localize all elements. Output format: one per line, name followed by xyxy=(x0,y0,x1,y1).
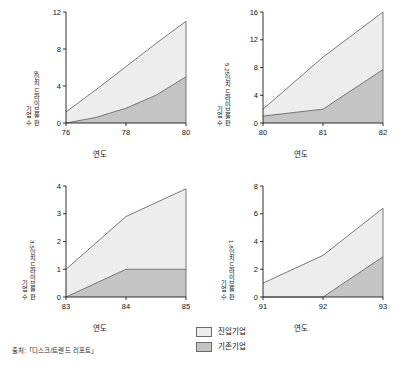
svg-text:83: 83 xyxy=(62,302,70,311)
plot-area-8inch: 04812767880 xyxy=(44,4,194,149)
legend-item-incumbent: 기존기업 xyxy=(196,340,326,353)
svg-text:1: 1 xyxy=(57,265,61,274)
svg-text:0: 0 xyxy=(57,293,61,302)
chart-panel-5-25inch: 기업 수 5.25인치 드라이브를 판 0481216808182 연도 xyxy=(201,0,401,168)
svg-text:78: 78 xyxy=(122,128,130,137)
x-axis-label-3-5inch: 연도 xyxy=(0,322,200,333)
y-axis-label-1-8inch: 기업 수 1.8인치 드라이브를 판 xyxy=(219,180,235,300)
svg-text:4: 4 xyxy=(254,91,258,100)
svg-text:6: 6 xyxy=(254,209,258,218)
source-note: 출처:「디스크/트렌드 리포트」 xyxy=(12,346,97,355)
legend-swatch-incumbent-icon xyxy=(196,342,212,352)
y-axis-label-line2: 기업 수 xyxy=(24,6,32,126)
y-axis-label-3-5inch: 기업 수 3.5인치 드라이브를 판 xyxy=(20,180,36,300)
y-axis-label-line1: 5.25인치 드라이브를 판 xyxy=(223,6,231,126)
svg-text:0: 0 xyxy=(57,119,61,128)
y-axis-label-line2: 기업 수 xyxy=(20,180,28,300)
chart-panel-3-5inch: 기업 수 3.5인치 드라이브를 판 01234838485 연도 xyxy=(0,172,200,340)
svg-text:2: 2 xyxy=(57,237,61,246)
svg-text:8: 8 xyxy=(57,45,61,54)
chart-panel-1-8inch: 기업 수 1.8인치 드라이브를 판 02468919293 연도 xyxy=(201,172,401,340)
y-axis-label-line1: 1.8인치 드라이브를 판 xyxy=(227,180,235,300)
svg-text:80: 80 xyxy=(259,128,267,137)
svg-text:4: 4 xyxy=(254,237,258,246)
y-axis-label-line1: 8인치 드라이브를 판 xyxy=(32,6,40,126)
svg-text:2: 2 xyxy=(254,265,258,274)
chart-panel-8inch: 기업 수 8인치 드라이브를 판 04812767880 연도 xyxy=(0,0,200,168)
svg-text:93: 93 xyxy=(379,302,387,311)
svg-text:12: 12 xyxy=(53,8,61,17)
svg-text:4: 4 xyxy=(57,82,61,91)
y-axis-label-8inch: 기업 수 8인치 드라이브를 판 xyxy=(24,6,40,126)
legend-label-entrant: 진입기업 xyxy=(218,327,246,337)
svg-text:8: 8 xyxy=(254,63,258,72)
svg-text:4: 4 xyxy=(57,182,61,191)
x-axis-label-8inch: 연도 xyxy=(0,148,200,159)
svg-text:3: 3 xyxy=(57,209,61,218)
svg-text:8: 8 xyxy=(254,182,258,191)
legend-swatch-entrant-icon xyxy=(196,327,212,337)
svg-text:82: 82 xyxy=(379,128,387,137)
legend-label-incumbent: 기존기업 xyxy=(218,342,246,352)
svg-text:91: 91 xyxy=(259,302,267,311)
svg-text:12: 12 xyxy=(250,35,258,44)
figure-root: 기업 수 8인치 드라이브를 판 04812767880 연도 기업 수 5.2… xyxy=(0,0,401,371)
legend-item-entrant: 진입기업 xyxy=(196,325,326,338)
plot-area-1-8inch: 02468919293 xyxy=(241,178,391,323)
plot-area-5-25inch: 0481216808182 xyxy=(241,4,391,149)
svg-text:0: 0 xyxy=(254,119,258,128)
y-axis-label-5-25inch: 기업 수 5.25인치 드라이브를 판 xyxy=(215,6,231,126)
y-axis-label-line2: 기업 수 xyxy=(219,180,227,300)
svg-text:92: 92 xyxy=(319,302,327,311)
svg-text:85: 85 xyxy=(182,302,190,311)
y-axis-label-line2: 기업 수 xyxy=(215,6,223,126)
svg-text:84: 84 xyxy=(122,302,130,311)
svg-text:80: 80 xyxy=(182,128,190,137)
svg-text:81: 81 xyxy=(319,128,327,137)
y-axis-label-line1: 3.5인치 드라이브를 판 xyxy=(28,180,36,300)
svg-text:76: 76 xyxy=(62,128,70,137)
plot-area-3-5inch: 01234838485 xyxy=(44,178,194,323)
x-axis-label-5-25inch: 연도 xyxy=(201,148,401,159)
svg-text:16: 16 xyxy=(250,8,258,17)
legend: 진입기업 기존기업 xyxy=(196,325,326,357)
chart-grid: 기업 수 8인치 드라이브를 판 04812767880 연도 기업 수 5.2… xyxy=(0,0,401,335)
svg-text:0: 0 xyxy=(254,293,258,302)
